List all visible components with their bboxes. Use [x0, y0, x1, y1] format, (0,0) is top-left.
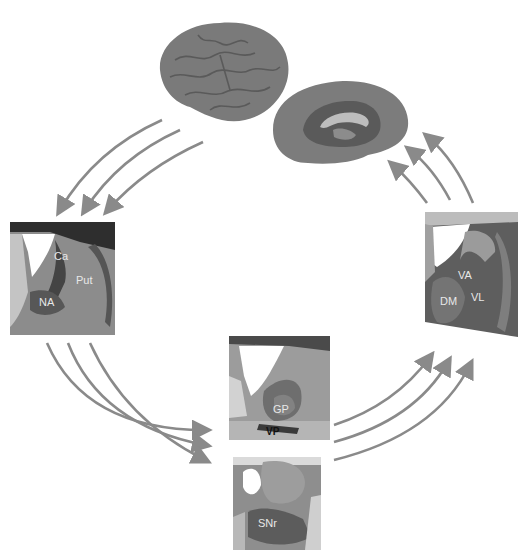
arrow-thalamus-to-cortex-3 [428, 137, 473, 203]
nigra-panel: SNr [233, 457, 321, 550]
pallidum-panel: GP VP [229, 336, 330, 440]
label-nucleus-accumbens: NA [39, 297, 54, 308]
arrow-cortex-to-striatum-1 [60, 120, 162, 210]
arrow-cortex-to-striatum-3 [108, 142, 203, 210]
arrow-basal-to-thalamus-2 [334, 362, 448, 442]
arrow-striatum-to-basal-1 [47, 343, 205, 430]
label-ventral-lateral: VL [471, 292, 484, 303]
thalamus-panel: VA VL DM [425, 212, 518, 350]
label-ventral-anterior: VA [458, 270, 472, 281]
label-globus-pallidus: GP [273, 404, 289, 415]
label-caudate: Ca [54, 251, 68, 262]
arrow-thalamus-to-cortex-1 [393, 165, 427, 203]
arrow-thalamus-to-cortex-2 [410, 150, 450, 200]
label-substantia-nigra: SNr [258, 518, 277, 529]
cortex-medial-image [268, 75, 413, 170]
label-putamen: Put [76, 275, 93, 286]
label-dorsomedial: DM [440, 296, 457, 307]
striatum-panel: Ca Put NA [10, 222, 115, 335]
arrow-basal-to-thalamus-1 [334, 357, 430, 425]
arrow-cortex-to-striatum-2 [85, 130, 180, 210]
label-ventral-pallidum: VP [266, 427, 279, 437]
